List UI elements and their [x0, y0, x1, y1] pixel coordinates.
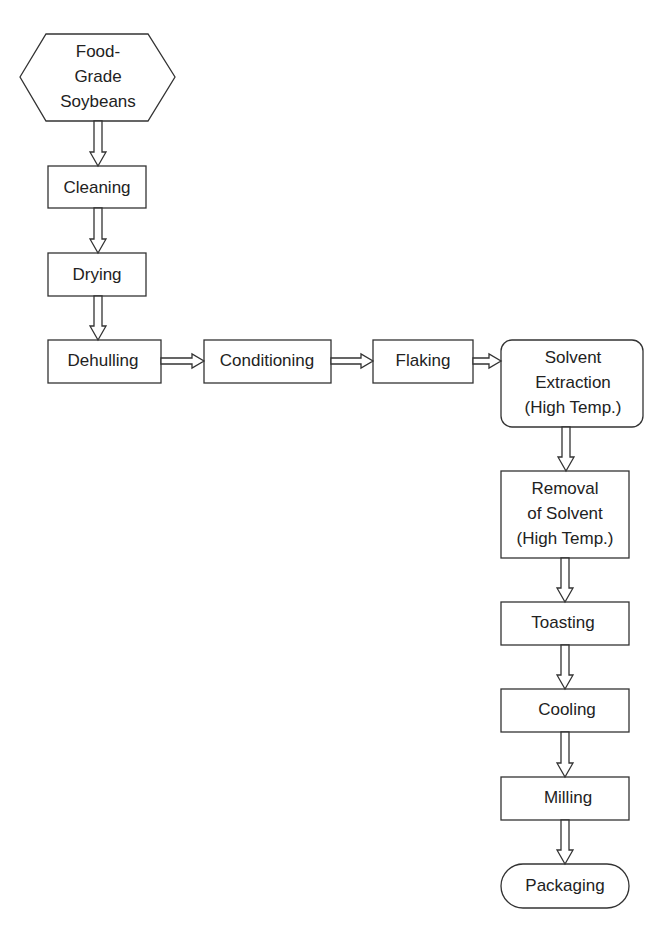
node-cleaning: Cleaning	[48, 166, 146, 208]
node-label-line: Food-	[76, 42, 120, 61]
node-label-line: Drying	[72, 265, 121, 284]
hollow-arrow-down-icon	[558, 427, 574, 471]
hollow-arrow-right-icon	[331, 354, 373, 368]
node-drying: Drying	[48, 253, 146, 296]
arrow-toasting-to-cooling	[557, 645, 573, 689]
node-label-line: Cleaning	[63, 178, 130, 197]
node-toasting: Toasting	[501, 602, 629, 645]
node-label-line: Dehulling	[68, 351, 139, 370]
hollow-arrow-down-icon	[557, 645, 573, 689]
arrow-dehulling-to-conditioning	[161, 354, 204, 368]
node-label-line: Removal	[531, 479, 598, 498]
arrow-soybeans-to-cleaning	[90, 121, 106, 166]
node-label-line: Conditioning	[220, 351, 315, 370]
hollow-arrow-down-icon	[557, 732, 573, 777]
node-label-line: Cooling	[538, 700, 596, 719]
arrow-removal-to-toasting	[557, 558, 573, 602]
node-solvent-extraction: Solvent Extraction (High Temp.)	[501, 340, 643, 427]
node-label-line: (High Temp.)	[517, 529, 614, 548]
hollow-arrow-right-icon	[473, 354, 501, 368]
arrow-solvent-extraction-to-removal	[558, 427, 574, 471]
hollow-arrow-down-icon	[90, 121, 106, 166]
hollow-arrow-down-icon	[557, 558, 573, 602]
node-label-line: Milling	[544, 788, 592, 807]
node-label-line: Flaking	[396, 351, 451, 370]
node-label-line: of Solvent	[527, 504, 603, 523]
node-milling: Milling	[501, 777, 629, 820]
soybean-processing-flowchart: Food- Grade Soybeans Cleaning Drying Deh…	[0, 0, 666, 932]
hollow-arrow-right-icon	[161, 354, 204, 368]
arrow-cleaning-to-drying	[90, 208, 106, 253]
node-label-line: (High Temp.)	[525, 398, 622, 417]
hollow-arrow-down-icon	[90, 296, 106, 340]
arrow-drying-to-dehulling	[90, 296, 106, 340]
node-label-line: Soybeans	[60, 92, 136, 111]
hollow-arrow-down-icon	[90, 208, 106, 253]
arrow-conditioning-to-flaking	[331, 354, 373, 368]
node-conditioning: Conditioning	[204, 340, 331, 383]
node-cooling: Cooling	[501, 689, 629, 732]
node-label-line: Grade	[74, 67, 121, 86]
arrow-cooling-to-milling	[557, 732, 573, 777]
node-food-grade-soybeans: Food- Grade Soybeans	[20, 34, 175, 121]
hollow-arrow-down-icon	[557, 820, 573, 864]
arrow-milling-to-packaging	[557, 820, 573, 864]
arrow-flaking-to-solvent-extraction	[473, 354, 501, 368]
node-label-line: Packaging	[525, 876, 604, 895]
node-removal-of-solvent: Removal of Solvent (High Temp.)	[501, 471, 629, 558]
node-packaging: Packaging	[501, 864, 629, 908]
node-dehulling: Dehulling	[48, 340, 161, 383]
node-label-line: Solvent	[545, 348, 602, 367]
node-label-line: Toasting	[531, 613, 594, 632]
node-flaking: Flaking	[373, 340, 473, 383]
node-label-line: Extraction	[535, 373, 611, 392]
